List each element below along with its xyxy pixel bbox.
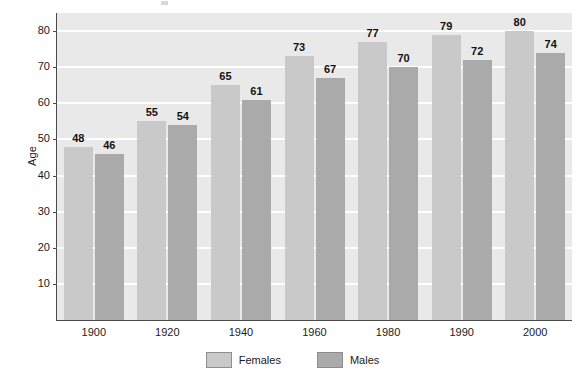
gridline [57,283,572,285]
gridline [57,102,572,104]
bar-males-1990 [463,60,492,320]
bar-value-label: 65 [205,70,245,82]
bar-value-label: 72 [457,45,497,57]
bar-value-label: 74 [531,38,571,50]
y-axis-tick-mark [53,139,57,140]
gridline [57,30,572,32]
y-axis-tick-label: 20 [24,241,50,253]
x-axis-tick-label: 1920 [137,326,197,338]
y-axis-tick-label: 30 [24,205,50,217]
chart-legend: Females Males [0,352,585,368]
bar-value-label: 67 [310,63,350,75]
y-axis-tick-label: 40 [24,169,50,181]
bar-males-2000 [536,53,565,320]
bar-females-2000 [505,31,534,320]
bar-value-label: 73 [279,41,319,53]
bar-females-1990 [432,35,461,320]
bar-females-1960 [285,56,314,320]
legend-swatch-males-icon [317,352,343,368]
x-axis-line [56,320,572,321]
gridline [57,211,572,213]
x-axis-tick-label: 1990 [432,326,492,338]
bar-value-label: 79 [426,20,466,32]
y-axis-tick-mark [53,248,57,249]
bar-males-1940 [242,100,271,320]
x-axis-tick-label: 1980 [358,326,418,338]
bar-value-label: 46 [89,139,129,151]
bar-males-1980 [389,67,418,320]
legend-label-females: Females [239,354,281,366]
legend-item-females: Females [206,352,281,368]
gridline [57,175,572,177]
y-axis-tick-mark [53,103,57,104]
y-axis-tick-mark [53,212,57,213]
bar-females-1980 [358,42,387,320]
y-axis-tick-label: 50 [24,132,50,144]
y-axis-tick-mark [53,67,57,68]
plot-area [57,13,572,320]
x-axis-tick-label: 1900 [64,326,124,338]
y-axis-tick-mark [53,284,57,285]
y-axis-tick-label: 70 [24,60,50,72]
y-axis-tick-label: 60 [24,96,50,108]
bar-value-label: 61 [236,85,276,97]
y-axis-tick-label: 10 [24,277,50,289]
bar-value-label: 54 [163,110,203,122]
bar-females-1940 [211,85,240,320]
legend-item-males: Males [317,352,379,368]
x-axis-tick-label: 1960 [285,326,345,338]
bar-males-1920 [168,125,197,320]
gridline [57,247,572,249]
y-axis-line [56,13,57,321]
x-axis-tick-label: 2000 [505,326,565,338]
y-axis-tick-mark [53,31,57,32]
legend-label-males: Males [350,354,379,366]
x-axis-tick-label: 1940 [211,326,271,338]
bar-value-label: 70 [384,52,424,64]
bar-females-1920 [137,121,166,320]
legend-swatch-females-icon [206,352,232,368]
y-axis-tick-mark [53,176,57,177]
bar-value-label: 80 [500,16,540,28]
bar-females-1900 [64,147,93,320]
bar-males-1960 [316,78,345,320]
gridline [57,138,572,140]
bar-value-label: 77 [353,27,393,39]
scan-artifact [161,1,168,5]
bar-chart: Age 102030405060708048461900555419206561… [0,0,585,383]
y-axis-tick-label: 80 [24,24,50,36]
bar-males-1900 [95,154,124,320]
